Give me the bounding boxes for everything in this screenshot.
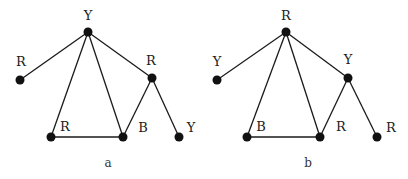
graph-b-node-label-br: R [386, 120, 397, 135]
graph-a-edge-right-br [152, 78, 179, 137]
graph-coloring-diagram: YRRRBY a RYYBRR b [0, 0, 408, 179]
graph-a-node-label-top: Y [83, 8, 93, 23]
graph-a-node-label-right: R [146, 53, 157, 68]
graph-b-edge-top-right [286, 32, 348, 78]
graph-b-node-label-top: R [281, 8, 292, 23]
graph-a-node-bm [119, 133, 128, 142]
graph-b-labels: RYYBRR [212, 8, 397, 135]
graph-b-node-label-bm: R [336, 119, 347, 134]
graph-b-caption: b [304, 156, 312, 170]
graph-a-node-right [148, 74, 157, 83]
graph-b: RYYBRR b [212, 8, 397, 170]
graph-b-edge-right-br [348, 78, 377, 137]
graph-b-edge-top-bm [286, 32, 320, 137]
graph-b-edge-top-left [217, 32, 286, 80]
graph-a-node-label-bl: R [60, 119, 71, 134]
graph-a: YRRRBY a [16, 8, 196, 170]
graph-a-nodes [16, 28, 184, 142]
graph-a-edge-top-left [20, 32, 88, 80]
graph-b-node-bm [316, 133, 325, 142]
graph-b-nodes [213, 28, 382, 142]
graph-b-node-top [282, 28, 291, 37]
graph-b-node-label-right: Y [343, 52, 353, 67]
graph-b-node-br [373, 133, 382, 142]
graph-a-node-label-br: Y [186, 120, 196, 135]
graph-b-node-right [344, 74, 353, 83]
graph-a-caption: a [104, 156, 111, 170]
graph-a-node-br [175, 133, 184, 142]
graph-a-node-label-bm: B [138, 120, 148, 135]
graph-b-edge-top-bl [247, 32, 286, 137]
graph-b-node-label-bl: B [256, 119, 266, 134]
graph-a-node-bl [47, 133, 56, 142]
graph-a-node-label-left: R [16, 54, 27, 69]
graph-a-node-top [84, 28, 93, 37]
graph-a-edges [20, 32, 179, 137]
graph-b-edges [217, 32, 377, 137]
graph-b-node-bl [243, 133, 252, 142]
graph-b-node-left [213, 76, 222, 85]
graph-b-node-label-left: Y [212, 54, 222, 69]
graph-a-edge-top-bm [88, 32, 123, 137]
graph-a-node-left [16, 76, 25, 85]
graph-a-edge-top-right [88, 32, 152, 78]
